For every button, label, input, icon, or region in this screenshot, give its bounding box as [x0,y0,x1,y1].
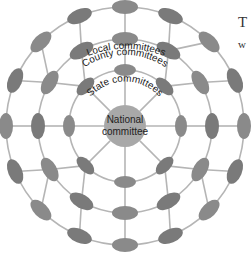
national-label-line2: committee [102,126,149,137]
committee-node [112,206,138,220]
committee-node [112,238,138,252]
committee-node [31,113,45,139]
committee-node [237,113,251,139]
cropped-side-text-1: T [238,14,247,31]
cropped-side-text-2: w [238,38,246,50]
national-label-line1: National [107,114,144,125]
committee-node [175,115,187,137]
committee-node [112,0,138,14]
committee-node [63,115,75,137]
committee-node [205,113,219,139]
committee-node [114,176,136,188]
committee-diagram: National committee State committees Coun… [0,0,252,254]
committee-node [0,113,13,139]
